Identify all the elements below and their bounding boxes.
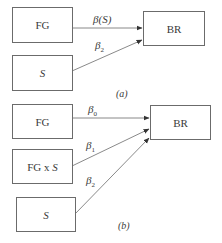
node-s-a: S [12,55,73,91]
edge-label-beta2-a: β2 [95,39,104,54]
node-br-a-label: BR [167,23,182,35]
node-br-b: BR [150,105,211,140]
edge-s-to-br-a [72,40,142,71]
node-fg-b-label: FG [35,116,49,128]
caption-b: (b) [118,220,130,231]
edge-label-beta2-b: β2 [86,174,95,189]
edge-fgxs-to-br-b [72,129,149,166]
node-br-a: BR [143,11,205,46]
node-fgxs-b: FG x S [12,149,73,184]
node-fg-a-label: FG [35,19,49,31]
node-br-b-label: BR [173,117,188,129]
edge-label-beta0-b: β0 [88,103,97,118]
node-fgxs-b-label: FG x S [27,161,58,173]
node-s-b: S [16,197,76,232]
edge-label-beta-s: β(S) [93,13,111,25]
node-s-b-label: S [43,209,49,221]
edge-label-beta1-b: β1 [86,139,95,154]
node-s-a-label: S [40,67,46,79]
node-fg-a: FG [12,7,73,43]
node-fg-b: FG [12,104,73,139]
caption-a: (a) [116,88,128,99]
